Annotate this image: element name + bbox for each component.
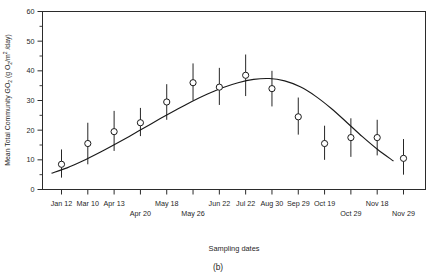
x-tick-label: Oct 19 xyxy=(314,199,335,208)
data-point-marker xyxy=(295,114,301,120)
data-point-marker xyxy=(321,140,327,146)
x-tick-label: Aug 30 xyxy=(261,199,284,208)
svg-text:Mean Total Community GO2 (g O2: Mean Total Community GO2 (g O2/m2 /day) xyxy=(3,34,13,165)
x-tick-label: May 18 xyxy=(155,199,179,208)
panel-label: (b) xyxy=(213,262,223,272)
data-point-marker xyxy=(400,155,406,161)
x-tick-label: Mar 10 xyxy=(77,199,99,208)
x-tick-label: May 26 xyxy=(181,209,205,218)
ylabel-go-text: GO xyxy=(4,82,11,93)
y-tick-label: 0 xyxy=(31,185,35,194)
ylabel-units-open: (g O xyxy=(4,64,12,80)
y-tick-label: 10 xyxy=(27,155,35,164)
x-tick-label: Oct 29 xyxy=(340,209,361,218)
data-point-marker xyxy=(190,80,196,86)
data-point-marker xyxy=(243,72,249,78)
x-tick-label: Apr 13 xyxy=(104,199,125,208)
y-axis-title: Mean Total Community GO2 (g O2/m2 /day) xyxy=(3,34,13,165)
x-axis-ticks xyxy=(62,190,404,195)
x-tick-label: Jan 12 xyxy=(51,199,73,208)
ylabel-main-text: Mean Total Community xyxy=(4,93,12,165)
x-axis-labels: Jan 12Mar 10Apr 13May 18Jun 22Jul 22Aug … xyxy=(51,199,415,218)
chart-canvas: 0102030405060 Jan 12Mar 10Apr 13May 18Ju… xyxy=(0,0,436,276)
x-tick-label: Sep 29 xyxy=(287,199,310,208)
y-tick-label: 40 xyxy=(27,66,35,75)
data-point-marker xyxy=(164,99,170,105)
x-tick-label: Jul 22 xyxy=(236,199,255,208)
y-tick-label: 50 xyxy=(27,37,35,46)
figure-panel-b: 0102030405060 Jan 12Mar 10Apr 13May 18Ju… xyxy=(0,0,436,276)
data-point-marker xyxy=(216,84,222,90)
x-axis-title: Sampling dates xyxy=(209,244,260,253)
x-tick-label: Nov 29 xyxy=(392,209,415,218)
x-tick-label: Nov 18 xyxy=(366,199,389,208)
x-tick-label: Apr 20 xyxy=(130,209,151,218)
fitted-curve xyxy=(52,78,394,173)
x-tick-label: Jun 22 xyxy=(209,199,231,208)
ylabel-units-close: /day) xyxy=(4,34,12,51)
data-point-marker xyxy=(348,134,354,140)
y-axis-ticks: 0102030405060 xyxy=(27,7,43,194)
plot-frame xyxy=(43,12,426,190)
y-tick-label: 30 xyxy=(27,96,35,105)
data-point-marker xyxy=(269,86,275,92)
data-markers-group xyxy=(58,72,406,167)
data-point-marker xyxy=(111,129,117,135)
y-tick-label: 60 xyxy=(27,7,35,16)
data-point-marker xyxy=(374,134,380,140)
data-point-marker xyxy=(137,120,143,126)
data-point-marker xyxy=(58,161,64,167)
data-point-marker xyxy=(85,140,91,146)
y-tick-label: 20 xyxy=(27,126,35,135)
error-bars-group xyxy=(62,55,404,178)
